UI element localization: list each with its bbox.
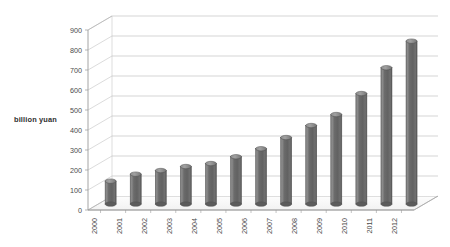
x-axis-tick-label: 2007 bbox=[265, 218, 274, 234]
bar bbox=[205, 161, 216, 206]
y-axis-tick-label: 300 bbox=[70, 146, 82, 155]
bar bbox=[281, 135, 292, 206]
x-axis-tick-label: 2010 bbox=[340, 218, 349, 234]
x-axis-tick-label: 2000 bbox=[90, 218, 99, 234]
bar bbox=[256, 147, 267, 207]
x-axis-tick-label: 2001 bbox=[115, 218, 124, 234]
bar bbox=[130, 172, 141, 206]
y-axis-tick-label: 200 bbox=[70, 166, 82, 175]
x-axis-tick-label: 2003 bbox=[165, 218, 174, 234]
y-axis-tick-label: 900 bbox=[70, 26, 82, 35]
x-axis-tick-label: 2002 bbox=[140, 218, 149, 234]
x-axis-tick-label: 2008 bbox=[290, 218, 299, 234]
bar bbox=[381, 66, 392, 207]
x-axis-tick-label: 2012 bbox=[390, 218, 399, 234]
chart-canvas: 0100200300400500600700800900 20002001200… bbox=[0, 0, 450, 247]
bar bbox=[406, 39, 417, 206]
bar-chart: 0100200300400500600700800900 20002001200… bbox=[0, 0, 450, 247]
bar bbox=[180, 164, 191, 206]
bar bbox=[331, 112, 342, 206]
bar bbox=[230, 155, 241, 207]
x-axis-tick-label: 2006 bbox=[240, 218, 249, 234]
y-axis-tick-label: 400 bbox=[70, 126, 82, 135]
y-axis-label: billion yuan bbox=[14, 115, 57, 124]
bar bbox=[306, 123, 317, 206]
bar bbox=[105, 179, 116, 206]
y-axis-tick-label: 100 bbox=[70, 186, 82, 195]
bar bbox=[155, 168, 166, 206]
y-axis-tick-label: 0 bbox=[78, 206, 82, 215]
x-axis-tick-label: 2009 bbox=[315, 218, 324, 234]
y-axis-tick-label: 600 bbox=[70, 86, 82, 95]
x-axis-tick-label: 2005 bbox=[215, 218, 224, 234]
y-axis-tick-label: 700 bbox=[70, 66, 82, 75]
x-axis-tick-label: 2004 bbox=[190, 218, 199, 234]
y-axis-tick-label: 800 bbox=[70, 46, 82, 55]
bar bbox=[356, 91, 367, 206]
y-axis-tick-label: 500 bbox=[70, 106, 82, 115]
x-axis-tick-label: 2011 bbox=[365, 218, 374, 233]
